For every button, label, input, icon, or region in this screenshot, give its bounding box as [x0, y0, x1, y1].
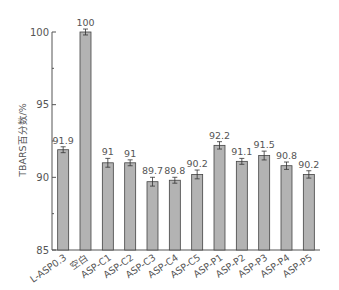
bar [102, 163, 113, 250]
bar [236, 161, 247, 250]
bar [192, 174, 203, 250]
bar [214, 145, 225, 250]
value-label: 89.7 [142, 165, 163, 176]
bar [303, 174, 314, 250]
bar [125, 163, 136, 250]
value-label: 90.2 [298, 159, 319, 170]
value-label: 91.5 [254, 139, 275, 150]
value-label: 91 [102, 146, 114, 157]
bar-chart: 859095100 91.9L-ASP0.3100空白91ASP-C191ASP… [0, 0, 339, 290]
y-tick-label: 95 [36, 99, 49, 110]
bar [259, 156, 270, 250]
y-axis-title: TBARS百分数/% [17, 103, 28, 178]
value-label: 89.8 [164, 165, 185, 176]
y-tick-label: 85 [36, 245, 49, 256]
bar [80, 32, 91, 250]
y-tick-label: 90 [36, 172, 49, 183]
bars [58, 29, 315, 250]
bar [169, 180, 180, 250]
value-label: 100 [76, 17, 94, 28]
bar [281, 166, 292, 250]
bar [58, 150, 69, 250]
value-label: 90.8 [276, 150, 297, 161]
category-label: L-ASP0.3 [28, 252, 68, 285]
bar [147, 182, 158, 250]
value-label: 90.2 [187, 158, 208, 169]
value-label: 91.9 [53, 135, 74, 146]
value-label: 92.2 [209, 130, 230, 141]
y-tick-label: 100 [30, 27, 49, 38]
value-label: 91.1 [231, 146, 252, 157]
value-label: 91 [124, 148, 136, 159]
